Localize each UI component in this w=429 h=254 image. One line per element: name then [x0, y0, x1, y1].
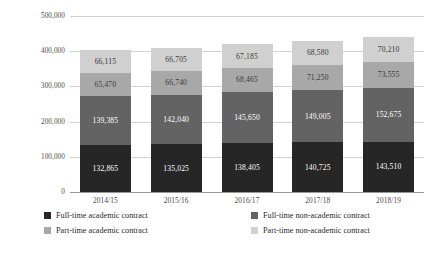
bar-segment[interactable]: 138,405 — [222, 143, 273, 192]
legend-item-full-time-academic-contract[interactable]: Full-time academic contract — [44, 211, 148, 220]
bar-group[interactable]: 67,18568,465145,650138,405 — [222, 44, 273, 192]
bar-segment[interactable]: 143,510 — [363, 142, 414, 193]
bar-segment[interactable]: 149,005 — [292, 90, 343, 142]
x-axis-tick-label: 2016/17 — [212, 196, 283, 205]
bar-group[interactable]: 70,21073,555152,675143,510 — [363, 37, 414, 192]
bar-group[interactable]: 68,58071,250149,005140,725 — [292, 41, 343, 192]
legend-swatch-icon — [44, 227, 51, 234]
legend-label: Part-time academic contract — [56, 226, 148, 235]
plot-area: 66,11565,470139,385132,86566,70566,74014… — [70, 16, 424, 192]
bar-segment[interactable]: 68,465 — [222, 68, 273, 92]
bar-segment[interactable]: 66,740 — [151, 71, 202, 94]
bar-segment[interactable]: 70,210 — [363, 37, 414, 62]
legend-label: Full-time non-academic contract — [263, 211, 370, 220]
bar-segment[interactable]: 152,675 — [363, 88, 414, 142]
legend-label: Full-time academic contract — [56, 211, 148, 220]
bar-segment[interactable]: 145,650 — [222, 92, 273, 143]
x-axis-line — [70, 192, 424, 193]
bar-group[interactable]: 66,11565,470139,385132,865 — [80, 50, 131, 192]
legend-label: Part-time non-academic contract — [263, 226, 370, 235]
bar-segment[interactable]: 132,865 — [80, 145, 131, 192]
legend-swatch-icon — [251, 212, 258, 219]
stacked-bar-chart: 66,11565,470139,385132,86566,70566,74014… — [0, 0, 429, 254]
y-axis-tick-label: 500,000 — [7, 12, 65, 20]
bar-segment[interactable]: 65,470 — [80, 73, 131, 96]
x-axis-tick-label: 2018/19 — [353, 196, 424, 205]
y-axis-tick-label: 400,000 — [7, 47, 65, 55]
bar-segment[interactable]: 139,385 — [80, 96, 131, 145]
bar-segment[interactable]: 68,580 — [292, 41, 343, 65]
x-axis-tick-label: 2014/15 — [70, 196, 141, 205]
bar-segment[interactable]: 66,705 — [151, 48, 202, 71]
legend-item-full-time-non-academic-contract[interactable]: Full-time non-academic contract — [251, 211, 370, 220]
bar-group[interactable]: 66,70566,740142,040135,025 — [151, 48, 202, 192]
y-axis-tick-label: 100,000 — [7, 153, 65, 161]
y-axis-tick-label: 200,000 — [7, 118, 65, 126]
legend-swatch-icon — [44, 212, 51, 219]
y-axis-tick-label: 300,000 — [7, 82, 65, 90]
x-axis-tick-label: 2017/18 — [282, 196, 353, 205]
bar-segment[interactable]: 142,040 — [151, 95, 202, 145]
bar-segment[interactable]: 71,250 — [292, 65, 343, 90]
bar-series-container: 66,11565,470139,385132,86566,70566,74014… — [70, 16, 424, 192]
legend-item-part-time-academic-contract[interactable]: Part-time academic contract — [44, 226, 148, 235]
legend-item-part-time-non-academic-contract[interactable]: Part-time non-academic contract — [251, 226, 370, 235]
bar-segment[interactable]: 73,555 — [363, 62, 414, 88]
bar-segment[interactable]: 67,185 — [222, 44, 273, 68]
bar-segment[interactable]: 135,025 — [151, 144, 202, 192]
bar-segment[interactable]: 66,115 — [80, 50, 131, 73]
x-axis-tick-label: 2015/16 — [141, 196, 212, 205]
bar-segment[interactable]: 140,725 — [292, 142, 343, 192]
y-axis-tick-label: 0 — [7, 188, 65, 196]
legend-swatch-icon — [251, 227, 258, 234]
chart-legend: Full-time academic contract Full-time no… — [44, 211, 414, 241]
